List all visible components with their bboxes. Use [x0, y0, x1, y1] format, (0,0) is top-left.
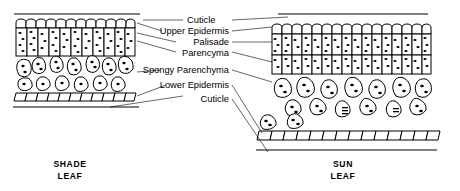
shade-spongy-parenchyma [17, 56, 133, 92]
leader-cuticle-top-right [232, 17, 288, 20]
label-parencyma: Parencyma [182, 48, 230, 58]
label-upper-epidermis: Upper Epidermis [160, 26, 230, 36]
sun-upper-epidermis-row [272, 24, 431, 34]
label-texts: Cuticle Upper Epidermis Palisade Parency… [143, 15, 230, 104]
leader-spongy-right [232, 70, 272, 82]
leader-parencyma-right [232, 52, 272, 62]
caption-shade-line1: SHADE [53, 159, 86, 169]
leaf-cross-section-diagram: Cuticle Upper Epidermis Palisade Parency… [0, 0, 460, 191]
leader-lower-epidermis-right [232, 85, 262, 133]
caption-sun-line1: SUN [333, 159, 353, 169]
leader-upper-epidermis-right [232, 27, 272, 31]
label-spongy-parenchyma: Spongy Parenchyma [143, 65, 230, 75]
sun-lower-epidermis-row [257, 131, 440, 140]
leader-parencyma-left [137, 41, 176, 52]
sun-leaf-figure [256, 14, 440, 150]
sun-spongy-parenchyma [260, 77, 431, 129]
leader-upper-epidermis-left [137, 23, 162, 31]
caption-shade-line2: LEAF [58, 171, 83, 181]
label-palisade: Palisade [193, 37, 229, 47]
shade-palisade-row [16, 28, 135, 56]
diagram-canvas: Cuticle Upper Epidermis Palisade Parency… [0, 0, 460, 191]
label-lower-epidermis: Lower Epidermis [160, 80, 230, 90]
shade-upper-epidermis-row [16, 19, 135, 28]
label-cuticle-top: Cuticle [187, 15, 215, 25]
sun-palisade-row-2 [272, 55, 431, 74]
shade-leaf-figure [13, 14, 140, 107]
label-cuticle-bottom: Cuticle [201, 94, 229, 104]
captions: SHADE LEAF SUN LEAF [53, 159, 355, 181]
caption-sun-line2: LEAF [331, 171, 356, 181]
sun-palisade-row-1 [272, 34, 431, 55]
shade-lower-epidermis-row [14, 93, 136, 101]
